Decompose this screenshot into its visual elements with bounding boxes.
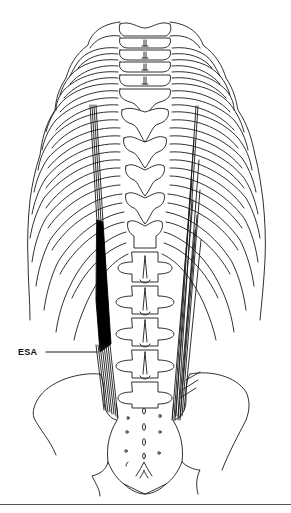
vertebral-column bbox=[116, 23, 174, 408]
anatomy-illustration bbox=[0, 0, 291, 513]
esa-label: ESA bbox=[18, 347, 37, 357]
bottom-divider bbox=[0, 504, 291, 505]
